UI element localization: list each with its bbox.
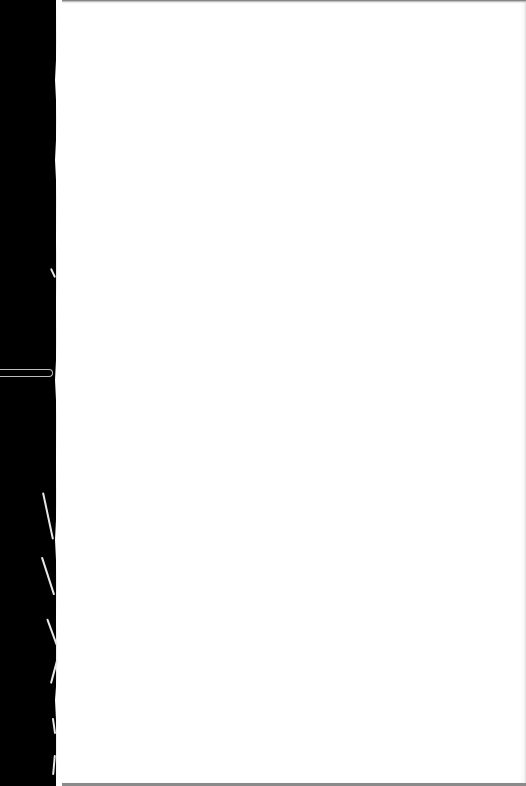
blank-paper-sheet — [56, 0, 526, 784]
photo-scene — [0, 0, 526, 786]
paper-top-edge-shadow — [56, 0, 526, 2]
tape-strip-outline — [0, 369, 53, 377]
